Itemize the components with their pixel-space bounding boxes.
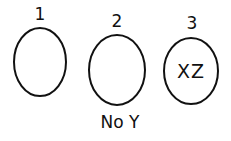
circle-1-number: 1 [35, 6, 46, 23]
circle-2-caption: No Y [101, 114, 140, 131]
circle-2-number: 2 [112, 13, 123, 30]
circle-1 [14, 28, 66, 96]
circle-2 [89, 35, 145, 105]
circle-3-content: XZ [177, 62, 205, 81]
circle-3-number: 3 [187, 15, 198, 32]
